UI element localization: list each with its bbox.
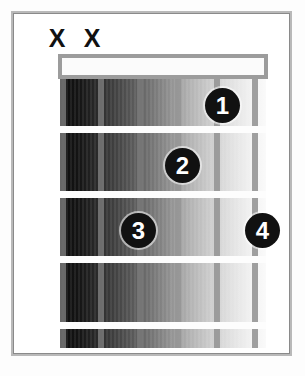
fret-line-4 <box>60 322 266 329</box>
string-line-5 <box>98 79 104 348</box>
fretboard-texture <box>60 79 266 348</box>
finger-dot-4[interactable]: 4 <box>245 213 280 248</box>
string-line-3 <box>175 79 181 348</box>
chord-diagram: X X 1 2 3 4 <box>0 0 305 376</box>
finger-dot-1[interactable]: 1 <box>205 88 240 123</box>
fret-line-1 <box>60 126 266 133</box>
nut-bar <box>58 54 268 79</box>
fret-line-3 <box>60 256 266 263</box>
mute-marker-string-6: X <box>44 24 70 52</box>
fret-line-2 <box>60 191 266 198</box>
mute-marker-string-5: X <box>79 24 105 52</box>
finger-dot-3[interactable]: 3 <box>121 213 156 248</box>
finger-dot-2[interactable]: 2 <box>165 148 200 183</box>
string-marker-row: X X <box>0 24 305 52</box>
string-line-6 <box>60 79 66 348</box>
fretboard <box>60 79 266 348</box>
